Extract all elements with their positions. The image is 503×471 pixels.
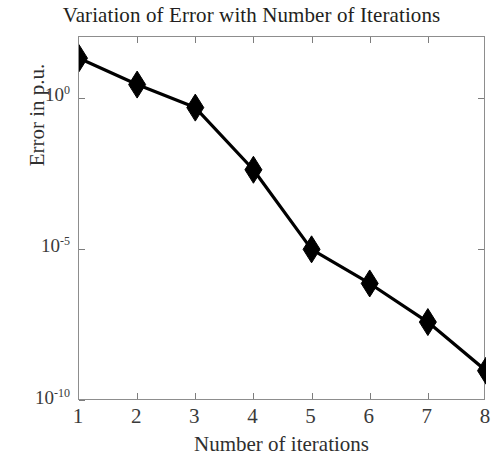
x-tick-mark	[312, 393, 313, 399]
data-point-marker	[361, 270, 378, 297]
x-tick-label: 6	[349, 404, 389, 429]
x-tick-label: 3	[174, 404, 214, 429]
chart-title: Variation of Error with Number of Iterat…	[0, 3, 503, 28]
x-tick-mark	[195, 37, 196, 43]
plot-area	[78, 36, 485, 400]
figure-canvas: Variation of Error with Number of Iterat…	[0, 0, 503, 471]
x-tick-label: 8	[465, 404, 503, 429]
x-tick-mark	[253, 393, 254, 399]
x-tick-label: 5	[291, 404, 331, 429]
y-tick-mark	[79, 98, 85, 99]
data-series-plot	[79, 37, 486, 401]
x-tick-mark	[428, 37, 429, 43]
y-tick-mark	[79, 400, 85, 401]
series-markers-error	[79, 45, 486, 384]
data-point-marker	[79, 45, 88, 72]
x-tick-mark	[370, 393, 371, 399]
y-tick-label-exponent: 0	[64, 82, 70, 96]
x-tick-mark	[137, 393, 138, 399]
y-axis-title-wrapper: Error in p.u.	[25, 0, 55, 315]
data-point-marker	[419, 309, 436, 336]
y-tick-mark	[79, 249, 85, 250]
y-tick-label: 10-10	[8, 387, 70, 409]
y-tick-mark	[478, 249, 484, 250]
x-tick-mark	[428, 393, 429, 399]
x-tick-mark	[137, 37, 138, 43]
x-tick-label: 4	[232, 404, 272, 429]
x-tick-mark	[253, 37, 254, 43]
data-point-marker	[478, 357, 487, 384]
y-tick-label-base: 10	[35, 387, 54, 408]
y-tick-mark	[478, 98, 484, 99]
x-tick-mark	[195, 393, 196, 399]
x-tick-label: 7	[407, 404, 447, 429]
x-tick-label: 2	[116, 404, 156, 429]
data-point-marker	[187, 94, 204, 121]
x-axis-title: Number of iterations	[78, 432, 485, 457]
y-tick-label-exponent: -10	[54, 386, 70, 400]
x-tick-mark	[312, 37, 313, 43]
x-tick-mark	[370, 37, 371, 43]
y-tick-label-exponent: -5	[60, 234, 70, 248]
data-point-marker	[129, 71, 146, 98]
y-axis-title: Error in p.u.	[25, 0, 50, 315]
